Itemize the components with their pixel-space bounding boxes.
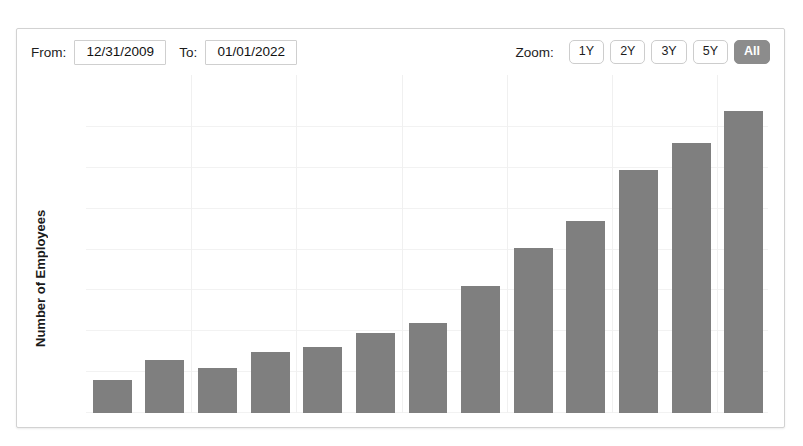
from-date-input[interactable]: 12/31/2009 [74, 40, 166, 65]
zoom-button-3y[interactable]: 3Y [651, 40, 686, 64]
bar[interactable] [619, 170, 658, 413]
bar[interactable] [356, 333, 395, 413]
bar[interactable] [461, 286, 500, 413]
gridline-horizontal [86, 167, 768, 168]
to-label: To: [179, 45, 197, 60]
zoom-controls: Zoom: 1Y2Y3Y5YAll [516, 40, 770, 64]
zoom-button-all[interactable]: All [734, 40, 770, 64]
bar[interactable] [303, 347, 342, 413]
bar[interactable] [198, 368, 237, 413]
bar[interactable] [724, 111, 763, 413]
bar[interactable] [672, 143, 711, 413]
gridline-vertical [191, 75, 192, 413]
chart-widget: From: 12/31/2009 To: 01/01/2022 Zoom: 1Y… [16, 28, 785, 428]
gridline-vertical [717, 75, 718, 413]
gridline-vertical [612, 75, 613, 413]
plot-canvas: 9,00010,00011,00012,00013,00014,00015,00… [86, 75, 768, 429]
gridline-horizontal [86, 249, 768, 250]
to-date-input[interactable]: 01/01/2022 [205, 40, 297, 65]
zoom-label: Zoom: [516, 45, 554, 60]
bar[interactable] [145, 360, 184, 413]
zoom-button-5y[interactable]: 5Y [693, 40, 728, 64]
date-range-group: From: 12/31/2009 To: 01/01/2022 [31, 40, 297, 65]
chart-toolbar: From: 12/31/2009 To: 01/01/2022 Zoom: 1Y… [17, 29, 784, 75]
y-axis-title: Number of Employees [31, 183, 51, 373]
bar[interactable] [566, 221, 605, 413]
chart-plot-area: Number of Employees 9,00010,00011,00012,… [17, 75, 784, 429]
bar[interactable] [93, 380, 132, 413]
gridline-horizontal [86, 126, 768, 127]
bar[interactable] [251, 352, 290, 413]
zoom-button-2y[interactable]: 2Y [610, 40, 645, 64]
gridline-vertical [507, 75, 508, 413]
gridline-horizontal [86, 208, 768, 209]
bar[interactable] [409, 323, 448, 413]
zoom-button-1y[interactable]: 1Y [569, 40, 604, 64]
zoom-button-list: 1Y2Y3Y5YAll [563, 40, 770, 64]
bar[interactable] [514, 248, 553, 413]
gridline-vertical [296, 75, 297, 413]
gridline-vertical [402, 75, 403, 413]
gridline-horizontal [86, 289, 768, 290]
from-label: From: [31, 45, 66, 60]
